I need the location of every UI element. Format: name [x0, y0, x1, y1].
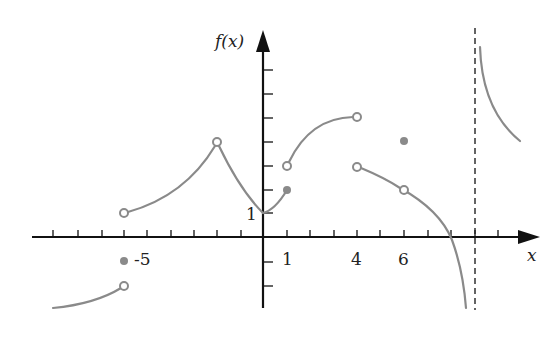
left-branch-curve [53, 288, 121, 308]
filled-point [400, 137, 408, 145]
open-point [120, 282, 128, 290]
open-point [213, 138, 221, 146]
rise-to-peak-curve [128, 146, 215, 212]
function-graph: f(x) x -5 1 4 6 1 [0, 0, 552, 342]
open-point [400, 186, 408, 194]
filled-point [283, 186, 291, 194]
right-branch-curve [480, 47, 520, 141]
x-axis [32, 230, 540, 244]
open-point [120, 209, 128, 217]
open-point [353, 113, 361, 121]
tick-label-6: 6 [398, 249, 409, 269]
min-to-one-curve [263, 190, 287, 213]
open-point [283, 162, 291, 170]
y-axis [256, 30, 273, 308]
open-point [353, 163, 361, 171]
fall-to-min-curve [219, 146, 263, 213]
arc-one-to-four-curve [289, 117, 353, 162]
tick-label-4: 4 [351, 249, 362, 269]
y-axis-label: f(x) [213, 31, 244, 51]
filled-point [120, 257, 128, 265]
tick-label-1: 1 [282, 249, 293, 269]
tick-label-neg5: -5 [134, 249, 151, 269]
x-axis-label: x [527, 245, 537, 265]
y-tick-label-1: 1 [246, 204, 257, 224]
